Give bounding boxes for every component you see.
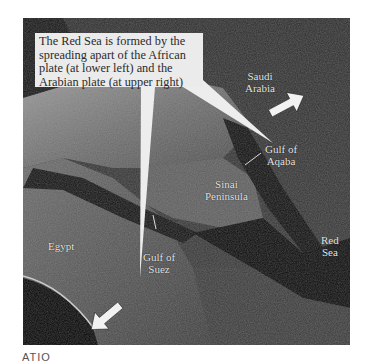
satellite-photo: The Red Sea is formed by the spreading a… xyxy=(23,18,350,345)
label-sinai-line2: Peninsula xyxy=(205,190,248,202)
label-red-sea: Red Sea xyxy=(321,234,339,258)
label-saudi-arabia-line2: Arabia xyxy=(245,82,275,94)
callout-box: The Red Sea is formed by the spreading a… xyxy=(35,33,203,87)
label-gulf-of-aqaba-line2: Aqaba xyxy=(265,155,297,167)
callout-text: The Red Sea is formed by the spreading a… xyxy=(39,34,186,89)
label-gulf-of-suez-line2: Suez xyxy=(143,263,175,275)
label-saudi-arabia: Saudi Arabia xyxy=(245,70,275,94)
label-red-sea-line1: Red xyxy=(321,234,339,246)
label-sinai-line1: Sinai xyxy=(205,178,248,190)
label-sinai-peninsula: Sinai Peninsula xyxy=(205,178,248,202)
label-gulf-of-suez-line1: Gulf of xyxy=(143,251,175,263)
label-gulf-of-aqaba: Gulf of Aqaba xyxy=(265,143,297,167)
label-gulf-of-aqaba-line1: Gulf of xyxy=(265,143,297,155)
label-egypt: Egypt xyxy=(48,240,74,252)
label-gulf-of-suez: Gulf of Suez xyxy=(143,251,175,275)
label-red-sea-line2: Sea xyxy=(321,246,339,258)
figure-caption-partial: ATIO xyxy=(22,352,51,361)
label-saudi-arabia-line1: Saudi xyxy=(245,70,275,82)
label-egypt-text: Egypt xyxy=(48,240,74,252)
